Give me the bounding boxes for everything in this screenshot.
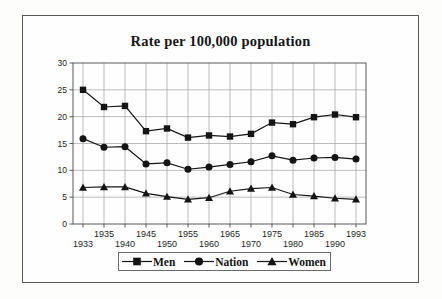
data-point — [206, 164, 213, 171]
data-point — [227, 161, 234, 168]
y-tick-label: 15 — [58, 139, 68, 149]
data-point — [353, 156, 360, 163]
x-tick-label: 1980 — [283, 239, 303, 249]
data-point — [101, 144, 108, 151]
x-axis-labels: 1933193519401945195019551960196519701975… — [73, 229, 366, 250]
data-point — [80, 87, 86, 93]
data-point — [122, 103, 128, 109]
x-tick-label: 1950 — [157, 239, 177, 249]
data-point — [143, 160, 150, 167]
x-tick-label: 1985 — [304, 229, 324, 239]
data-point — [185, 134, 191, 140]
data-point — [122, 143, 129, 150]
figure-frame: Rate per 100,000 population 051015202530… — [22, 15, 419, 283]
legend-label: Women — [288, 256, 326, 268]
data-point — [269, 119, 275, 125]
data-point — [248, 158, 255, 165]
y-tick-label: 5 — [62, 192, 67, 202]
x-tick-label: 1975 — [262, 229, 282, 239]
axis-ticks — [70, 63, 357, 228]
data-point — [227, 133, 233, 139]
x-tick-label: 1990 — [325, 239, 345, 249]
circle-marker-icon — [184, 256, 214, 267]
data-point — [290, 157, 297, 164]
data-point — [164, 159, 171, 166]
data-point — [248, 131, 254, 137]
data-point — [311, 154, 318, 161]
y-axis-labels: 051015202530 — [58, 58, 68, 229]
triangle-marker-icon — [257, 256, 287, 267]
legend-item-women: Women — [257, 256, 326, 268]
gridlines — [73, 63, 366, 224]
data-point — [143, 128, 149, 134]
x-tick-label: 1933 — [73, 239, 93, 249]
y-tick-label: 10 — [58, 165, 68, 175]
data-point — [185, 166, 192, 173]
data-point — [332, 154, 339, 161]
data-point — [164, 125, 170, 131]
data-point — [101, 104, 107, 110]
data-point — [332, 111, 338, 117]
y-tick-label: 30 — [58, 58, 68, 68]
series-men — [80, 87, 359, 141]
x-tick-label: 1945 — [136, 229, 156, 239]
data-point — [195, 257, 203, 265]
line-chart-plot-area: 0510152025301933193519401945195019551960… — [23, 16, 418, 282]
series-men-line — [83, 90, 356, 138]
y-tick-label: 20 — [58, 112, 68, 122]
data-point — [290, 121, 296, 127]
legend-label: Nation — [215, 256, 248, 268]
series-nation — [80, 135, 360, 173]
data-point — [206, 132, 212, 138]
x-tick-label: 1940 — [115, 239, 135, 249]
legend-label: Men — [153, 256, 175, 268]
legend-item-men: Men — [122, 256, 175, 268]
x-tick-label: 1955 — [178, 229, 198, 239]
data-point — [80, 135, 87, 142]
legend: MenNationWomen — [118, 252, 331, 271]
legend-item-nation: Nation — [184, 256, 248, 268]
square-marker-icon — [122, 256, 152, 267]
data-point — [311, 114, 317, 120]
data-point — [269, 152, 276, 159]
series-women — [79, 183, 360, 203]
data-point — [133, 258, 141, 266]
x-tick-label: 1960 — [199, 239, 219, 249]
x-tick-label: 1965 — [220, 229, 240, 239]
y-tick-label: 0 — [62, 219, 67, 229]
x-tick-label: 1970 — [241, 239, 261, 249]
x-tick-label: 1935 — [94, 229, 114, 239]
y-tick-label: 25 — [58, 85, 68, 95]
x-tick-label: 1993 — [346, 229, 366, 239]
data-point — [353, 114, 359, 120]
